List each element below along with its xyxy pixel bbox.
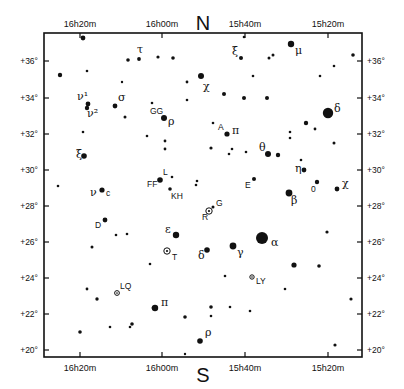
star-label: KH	[171, 191, 183, 201]
ra-tick-label-top: 15h20m	[312, 19, 345, 29]
star-dot	[195, 184, 198, 187]
star-dot	[91, 246, 94, 249]
star-dot	[95, 297, 98, 300]
star-dot	[245, 151, 248, 154]
star-dot	[224, 131, 229, 136]
star-dot	[333, 343, 336, 346]
star-dot	[126, 233, 129, 236]
star-dot	[319, 75, 322, 78]
dec-tick-label-left: +20°	[20, 345, 38, 355]
star-dot	[231, 148, 234, 151]
star-dot	[212, 206, 215, 209]
dec-tick-label-left: +36°	[20, 56, 38, 66]
star-label: A	[218, 122, 224, 132]
star-dot	[197, 338, 203, 344]
star-dot	[184, 353, 186, 355]
star-dot	[99, 187, 104, 192]
dec-tick-label-right: +20°	[367, 345, 385, 355]
star-dot	[291, 262, 296, 267]
star-label: E	[245, 180, 251, 190]
star-label: ρ	[205, 326, 211, 339]
star-label: η	[295, 162, 302, 175]
ra-tick-label-bottom: 16h20m	[64, 363, 97, 373]
star-label: δ	[198, 249, 205, 262]
star-label: 0	[311, 184, 316, 194]
star-dot	[130, 322, 134, 326]
star-dot	[228, 153, 231, 156]
ra-tick-label-bottom: 15h20m	[312, 363, 345, 373]
star-label: χ	[203, 80, 210, 93]
ra-tick-label-top: 16h00m	[146, 19, 179, 29]
star-label: ξ	[76, 148, 82, 161]
star-dot	[317, 264, 321, 268]
variable-star-label: R	[202, 212, 208, 222]
dec-tick-label-right: +30°	[367, 165, 385, 175]
star-dot	[304, 121, 308, 125]
star-label: α	[271, 236, 279, 249]
star-dot	[156, 55, 159, 58]
star-dot	[252, 75, 255, 78]
dec-tick-label-left: +34°	[20, 93, 38, 103]
star-dot	[198, 73, 204, 79]
dec-tick-label-left: +28°	[20, 201, 38, 211]
dec-tick-label-right: +36°	[367, 56, 385, 66]
star-dot	[171, 56, 175, 60]
dec-tick-label-left: +30°	[20, 165, 38, 175]
dec-tick-label-right: +26°	[367, 237, 385, 247]
star-dot	[256, 232, 268, 244]
star-dot	[78, 330, 82, 334]
star-label: θ	[259, 141, 266, 154]
star-dot	[183, 315, 187, 319]
star-dot	[288, 41, 294, 47]
star-dot	[325, 230, 328, 233]
dec-tick-label-right: +24°	[367, 273, 385, 283]
star-label: ν²	[87, 107, 98, 120]
ra-tick-label-bottom: 15h40m	[229, 363, 262, 373]
star-dot	[229, 306, 232, 309]
star-label: G	[216, 198, 223, 208]
dec-tick-label-left: +22°	[20, 309, 38, 319]
star-dot	[129, 326, 132, 329]
star-dot	[124, 116, 127, 119]
star-dot	[212, 122, 215, 125]
star-dot	[224, 275, 227, 278]
star-dot	[249, 310, 252, 313]
star-dot	[209, 305, 213, 309]
ra-tick-label-top: 16h20m	[64, 19, 97, 29]
ra-tick-label-top: 15h40m	[229, 19, 262, 29]
star-dot	[314, 128, 317, 131]
star-dot	[149, 263, 152, 266]
star-dot	[272, 54, 275, 57]
star-dot	[115, 234, 118, 237]
star-label: D	[95, 220, 101, 230]
compass-north: N	[196, 12, 210, 34]
star-label: ξ	[232, 45, 238, 58]
star-dot	[276, 153, 280, 157]
star-label: β	[291, 194, 297, 207]
star-dot	[333, 142, 336, 145]
star-dot	[349, 297, 352, 300]
star-dot	[265, 151, 271, 157]
star-dot	[146, 135, 149, 138]
star-dot	[86, 70, 89, 73]
star-dot	[109, 326, 112, 329]
variable-stars	[115, 208, 255, 296]
compass-south: S	[196, 364, 209, 386]
star-dot	[137, 57, 141, 61]
star-label: L	[163, 167, 168, 177]
star-dot	[333, 65, 336, 68]
star-label: τ	[137, 43, 143, 56]
dec-tick-label-right: +22°	[367, 309, 385, 319]
star-dot	[151, 102, 154, 105]
star-dot	[186, 99, 189, 102]
star-label: GG	[150, 106, 163, 116]
star-dot	[173, 232, 179, 238]
dec-tick-label-right: +28°	[367, 201, 385, 211]
star-dot	[289, 131, 292, 134]
star-label: χ	[342, 177, 349, 190]
star-dot	[196, 180, 199, 183]
star-dot	[302, 168, 307, 173]
dec-tick-label-left: +26°	[20, 237, 38, 247]
star-dot	[171, 176, 174, 179]
star-dot	[82, 131, 85, 134]
